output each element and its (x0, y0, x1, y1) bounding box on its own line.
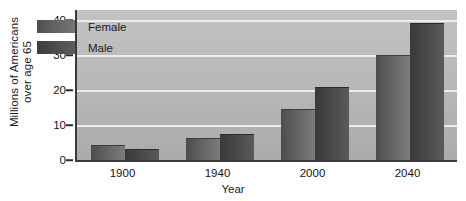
x-tick-label: 1940 (193, 167, 243, 179)
y-tick-label: 20 (40, 84, 66, 96)
y-axis-label-line2: over age 65 (21, 41, 34, 103)
bar-male-2040 (410, 23, 444, 160)
chart-figure: Millions of Americans over age 65 010203… (0, 0, 466, 201)
legend-label-male: Male (88, 42, 113, 54)
legend-swatch-male (37, 41, 75, 54)
y-tick-label: 0 (40, 154, 66, 166)
legend-swatch-female (37, 20, 75, 33)
y-axis-label-line1: Millions of Americans (8, 17, 21, 127)
bar-male-1900 (125, 149, 159, 161)
y-tick-label: 10 (40, 119, 66, 131)
legend-item-female: Female (37, 18, 237, 35)
bar-female-1940 (186, 138, 220, 160)
legend-item-male: Male (37, 39, 237, 56)
bar-female-1900 (91, 145, 125, 160)
x-tick-label: 1900 (98, 167, 148, 179)
y-tick-mark (66, 159, 73, 161)
y-tick-mark (66, 89, 73, 91)
bar-female-2040 (376, 55, 410, 160)
y-axis-label: Millions of Americans over age 65 (1, 0, 41, 147)
x-tick-label: 2040 (383, 167, 433, 179)
bar-male-1940 (220, 134, 254, 160)
y-tick-mark (66, 124, 73, 126)
x-tick-label: 2000 (288, 167, 338, 179)
bar-male-2000 (315, 87, 349, 160)
legend: Female Male (37, 18, 237, 60)
legend-label-female: Female (88, 21, 126, 33)
x-axis-label: Year (0, 183, 466, 195)
bar-female-2000 (281, 109, 315, 160)
